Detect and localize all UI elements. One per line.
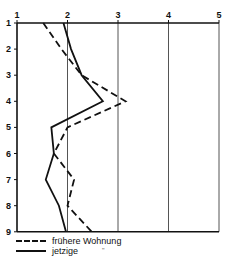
series-line-jetzige bbox=[46, 23, 103, 232]
legend-label: frühere Wohnung bbox=[52, 236, 121, 246]
y-tick-label: 8 bbox=[6, 201, 11, 211]
y-tick-label: 1 bbox=[6, 18, 11, 28]
y-tick-label: 7 bbox=[6, 175, 11, 185]
y-tick-label: 9 bbox=[6, 227, 11, 237]
ditto-mark: " bbox=[102, 246, 105, 256]
solid-line-swatch bbox=[16, 250, 46, 252]
legend-label: jetzige bbox=[52, 246, 78, 256]
y-tick-label: 2 bbox=[6, 44, 11, 54]
y-tick-label: 4 bbox=[6, 96, 11, 106]
x-tick-label: 5 bbox=[216, 10, 221, 20]
y-tick-label: 3 bbox=[6, 70, 11, 80]
y-tick-label: 6 bbox=[6, 149, 11, 159]
x-tick-label: 3 bbox=[115, 10, 120, 20]
legend-item-jetzige: jetzige " bbox=[16, 246, 121, 256]
legend-item-frühere-wohnung: frühere Wohnung bbox=[16, 236, 121, 246]
profile-chart: 12345123456789 bbox=[0, 0, 228, 259]
y-tick-label: 5 bbox=[6, 122, 11, 132]
legend: frühere Wohnung jetzige " bbox=[16, 236, 121, 256]
x-tick-label: 4 bbox=[166, 10, 171, 20]
x-tick-label: 2 bbox=[65, 10, 70, 20]
dashed-line-swatch bbox=[16, 240, 46, 242]
x-tick-label: 1 bbox=[14, 10, 19, 20]
